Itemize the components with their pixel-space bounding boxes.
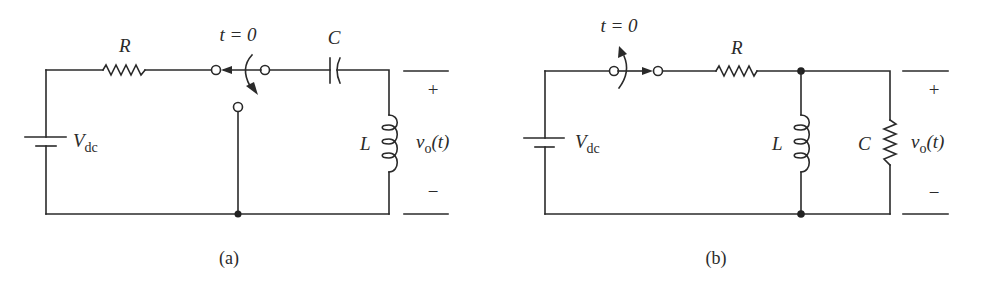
circuit-a: Vdc R t = 0 C	[25, 24, 449, 269]
source-label-b: Vdc	[575, 131, 600, 156]
source-label-a: Vdc	[73, 130, 98, 155]
output-minus-a: −	[428, 181, 439, 202]
capacitor-label-a: C	[328, 27, 341, 48]
resistor-label-b: R	[730, 37, 743, 58]
resistor-a	[103, 65, 145, 75]
junction-dot-a-bottom	[235, 211, 242, 218]
resistor-label-a: R	[118, 35, 131, 56]
switch-b-terminal-right	[654, 67, 663, 76]
inductor-label-b: L	[771, 133, 783, 154]
caption-a: (a)	[219, 248, 239, 269]
switch-b-terminal-left	[610, 67, 619, 76]
battery-b	[524, 138, 564, 147]
switch-b	[610, 46, 663, 88]
output-voltage-label-a: vo(t)	[416, 131, 449, 156]
wire-a-cap-to-right	[337, 70, 389, 115]
battery-a	[25, 137, 66, 146]
switch-a	[212, 55, 270, 112]
inductor-label-a: L	[359, 133, 371, 154]
wire-b-top-right	[757, 71, 890, 120]
switch-a-terminal-right	[261, 66, 270, 75]
switch-time-label-a: t = 0	[219, 24, 257, 45]
switch-a-terminal-lower	[234, 103, 243, 112]
switch-a-motion-arrow-icon	[246, 82, 258, 95]
output-plus-b: +	[929, 79, 940, 100]
switch-b-motion-arrow-icon	[618, 46, 627, 58]
circuit-b: Vdc t = 0 R L C	[524, 15, 948, 269]
capacitor-b-element	[884, 120, 896, 165]
inductor-a	[382, 115, 397, 172]
switch-b-blade-arrow-icon	[642, 67, 653, 75]
circuit-figure: Vdc R t = 0 C	[0, 0, 981, 288]
switch-a-blade-arrow-icon	[221, 66, 232, 74]
resistor-b	[716, 66, 757, 76]
switch-b-motion-arc	[619, 56, 627, 88]
switch-time-label-b: t = 0	[600, 15, 638, 36]
caption-b: (b)	[706, 248, 727, 269]
output-voltage-label-b: vo(t)	[911, 131, 944, 156]
junction-dot-b-bottom	[797, 210, 805, 218]
inductor-b	[794, 115, 809, 172]
output-minus-b: −	[929, 182, 940, 203]
capacitor-label-b: C	[858, 133, 871, 154]
switch-a-terminal-left	[212, 66, 221, 75]
output-plus-a: +	[428, 79, 439, 100]
